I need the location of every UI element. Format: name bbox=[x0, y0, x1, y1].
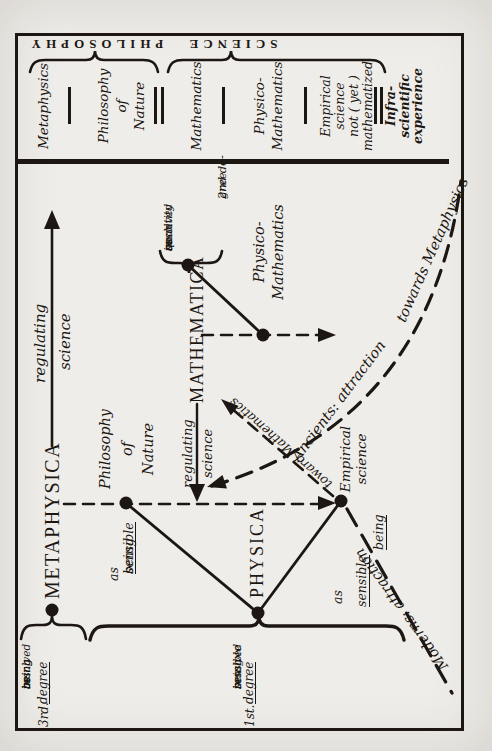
row-line: Philosophy bbox=[94, 59, 112, 153]
degree-word: degree bbox=[243, 662, 256, 704]
row-line: experience bbox=[411, 59, 425, 153]
table-row-empirical-science: Empirical science not ( yet ) mathematiz… bbox=[319, 59, 375, 153]
resolved-line: being bbox=[21, 659, 32, 689]
regulating-small-line1: regulating bbox=[180, 419, 195, 488]
row-separator bbox=[304, 87, 307, 124]
degree-word: gree bbox=[216, 173, 229, 199]
row-separator bbox=[68, 87, 71, 124]
row-separator bbox=[222, 87, 225, 124]
degree-word: degree bbox=[37, 662, 50, 704]
row-separator-double bbox=[154, 87, 157, 124]
regulating-small-line2: science bbox=[200, 429, 215, 478]
row-line: Mathematics bbox=[188, 59, 205, 153]
label-line: Empirical bbox=[337, 422, 353, 496]
scanned-page: PHILOSOPHY SCIENCE Metaphysics Philosoph… bbox=[0, 0, 492, 751]
row-separator-double bbox=[161, 87, 164, 124]
label-line: Philosophy bbox=[95, 403, 117, 495]
philosophy-of-nature-label: Philosophy of Nature bbox=[95, 403, 160, 495]
band-label-philosophy: PHILOSOPHY bbox=[25, 36, 165, 52]
as-sensible-being-left-label: as sensible being bbox=[106, 538, 123, 610]
label-line: being bbox=[123, 539, 137, 574]
label-line: of bbox=[117, 403, 139, 495]
row-line: not ( yet ) bbox=[347, 59, 361, 153]
table-row-mathematics: Mathematics bbox=[188, 59, 205, 153]
row-line: of bbox=[112, 59, 130, 153]
label-line: Mathematics bbox=[269, 179, 288, 325]
table-row-physico-mathematics: Physico- Mathematics bbox=[250, 59, 286, 153]
row-line: science bbox=[333, 59, 347, 153]
empirical-science-label: Empirical science bbox=[337, 422, 369, 496]
table-row-metaphysics: Metaphysics bbox=[35, 59, 52, 153]
row-line: Infra- bbox=[384, 59, 398, 153]
regulating-big-line1: regulating bbox=[31, 304, 49, 383]
resolved-line: being bbox=[232, 659, 243, 689]
band-label-science: SCIENCE bbox=[161, 36, 301, 52]
as-sensible-right-line3: being bbox=[373, 515, 387, 550]
row-line: Empirical bbox=[319, 59, 333, 153]
rotated-diagram-stage: PHILOSOPHY SCIENCE Metaphysics Philosoph… bbox=[0, 0, 492, 751]
degree-number: 1st. bbox=[243, 705, 258, 727]
row-line: Nature bbox=[130, 59, 148, 153]
label-line: science bbox=[353, 422, 369, 496]
row-separator-double bbox=[374, 87, 377, 124]
table-row-philosophy-of-nature: Philosophy of Nature bbox=[94, 59, 148, 153]
label-line: Physico- bbox=[250, 179, 269, 325]
row-line: Physico- bbox=[250, 59, 268, 153]
as-sensible-right-line1: as bbox=[330, 590, 345, 604]
row-line: scientific bbox=[398, 59, 412, 153]
physica-label: PHYSICA bbox=[247, 507, 268, 598]
row-line: Mathematics bbox=[268, 59, 286, 153]
physico-mathematics-label: Physico- Mathematics bbox=[250, 179, 287, 325]
table-divider-line bbox=[15, 159, 449, 164]
mathematica-label: MATHEMATICA bbox=[187, 255, 208, 403]
metaphysica-label: METAPHYSICA bbox=[41, 442, 64, 599]
row-line: Metaphysics bbox=[35, 59, 52, 153]
degree-number: 3rd. bbox=[37, 702, 52, 727]
table-row-infra-scientific: Infra- scientific experience bbox=[384, 59, 425, 153]
regulating-big-line2: science bbox=[56, 313, 74, 370]
resolved-line: such bbox=[163, 225, 174, 251]
row-line: mathematized bbox=[361, 59, 375, 153]
label-line: Nature bbox=[138, 403, 160, 495]
